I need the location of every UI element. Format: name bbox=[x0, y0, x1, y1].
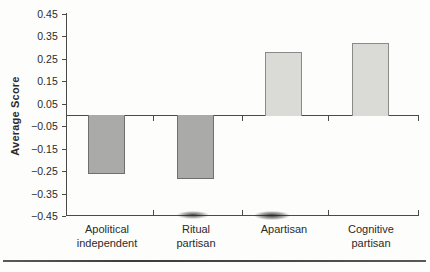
y-tick-mark bbox=[62, 104, 66, 105]
category-label: Cognitivepartisan bbox=[316, 223, 426, 250]
y-tick-label: 0.05 bbox=[20, 98, 58, 110]
y-tick-label: 0.35 bbox=[20, 30, 58, 42]
category-label-line: partisan bbox=[316, 237, 426, 251]
zero-line-tick bbox=[153, 115, 154, 121]
bar-cognitive-partisan bbox=[352, 43, 389, 116]
print-smudge bbox=[254, 211, 290, 220]
bottom-line-tick bbox=[328, 210, 329, 215]
y-tick-mark bbox=[62, 59, 66, 60]
category-label-line: partisan bbox=[141, 237, 251, 251]
y-tick-mark bbox=[62, 171, 66, 172]
bar-ritual-partisan bbox=[177, 115, 214, 179]
y-tick-label: −0.15 bbox=[20, 143, 58, 155]
y-tick-label: 0.25 bbox=[20, 53, 58, 65]
zero-line-tick bbox=[328, 115, 329, 121]
y-tick-label: 0.15 bbox=[20, 75, 58, 87]
y-tick-label: −0.05 bbox=[20, 120, 58, 132]
y-tick-mark bbox=[62, 81, 66, 82]
bar-chart-figure: Average Score 0.450.350.250.150.05−0.05−… bbox=[0, 0, 430, 272]
y-tick-mark bbox=[62, 149, 66, 150]
y-tick-label: −0.25 bbox=[20, 165, 58, 177]
x-axis-bottom-line bbox=[66, 215, 419, 216]
zero-line-tick bbox=[242, 115, 243, 121]
y-tick-label: −0.35 bbox=[20, 188, 58, 200]
y-tick-label: 0.45 bbox=[20, 8, 58, 20]
y-tick-mark bbox=[62, 126, 66, 127]
bar-apolitical-independent bbox=[88, 115, 125, 174]
bottom-line-tick bbox=[242, 210, 243, 215]
category-label-line: Cognitive bbox=[316, 223, 426, 237]
y-tick-mark bbox=[62, 14, 66, 15]
bottom-line-tick bbox=[153, 210, 154, 215]
y-tick-mark bbox=[62, 36, 66, 37]
zero-line-tick bbox=[418, 115, 419, 121]
bar-apartisan bbox=[265, 52, 302, 116]
y-tick-label: −0.45 bbox=[20, 210, 58, 222]
bottom-line-tick bbox=[418, 210, 419, 215]
figure-separator-rule bbox=[3, 260, 426, 262]
print-smudge bbox=[177, 211, 209, 219]
y-tick-mark bbox=[62, 216, 66, 217]
y-tick-mark bbox=[62, 194, 66, 195]
